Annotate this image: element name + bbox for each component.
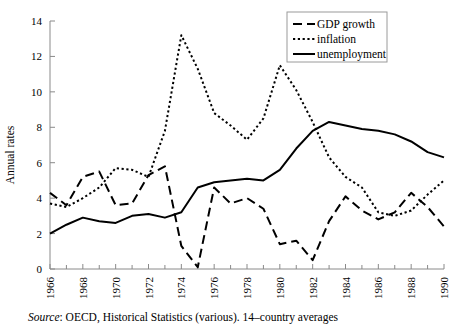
y-tick-label: 8 xyxy=(37,121,43,133)
y-tick-label: 10 xyxy=(31,86,43,98)
y-tick-label: 6 xyxy=(37,157,43,169)
x-tick-label: 1984 xyxy=(340,277,352,300)
x-tick-label: 1990 xyxy=(438,277,450,300)
legend-label-gdp-growth: GDP growth xyxy=(317,18,375,31)
x-tick-label: 1972 xyxy=(143,277,155,299)
source-label: Source xyxy=(28,311,60,323)
y-tick-label: 2 xyxy=(37,228,43,240)
x-tick-label: 1988 xyxy=(405,277,417,300)
x-tick-label: 1970 xyxy=(110,277,122,300)
series-line-gdp-growth xyxy=(50,166,444,267)
x-tick-label: 1982 xyxy=(307,277,319,299)
y-tick-label: 0 xyxy=(37,263,43,275)
y-tick-label: 14 xyxy=(31,15,43,27)
source-note: Source: OECD, Historical Statistics (var… xyxy=(28,311,338,323)
y-tick-label: 12 xyxy=(31,50,42,62)
x-tick-label: 1974 xyxy=(175,277,187,300)
x-axis-ticks xyxy=(50,264,444,269)
chart-canvas: 02468101214 1966196819701972197419761978… xyxy=(0,0,456,329)
y-axis-tick-labels: 02468101214 xyxy=(31,15,43,275)
legend-label-unemployment: unemployment xyxy=(317,48,387,61)
figure-container: 02468101214 1966196819701972197419761978… xyxy=(0,0,456,329)
x-tick-label: 1980 xyxy=(274,277,286,300)
source-text: : OECD, Historical Statistics (various).… xyxy=(60,311,339,323)
x-tick-label: 1978 xyxy=(241,277,253,300)
legend-label-inflation: inflation xyxy=(317,33,356,45)
x-tick-label: 1986 xyxy=(372,277,384,300)
x-axis-tick-labels: 1966196819701972197419761978198019821984… xyxy=(44,277,450,300)
data-series-group xyxy=(50,35,444,267)
x-tick-label: 1976 xyxy=(208,277,220,300)
y-axis-title: Annual rates xyxy=(4,125,16,184)
x-tick-label: 1968 xyxy=(77,277,89,300)
y-tick-label: 4 xyxy=(37,192,43,204)
chart-legend: GDP growthinflationunemployment xyxy=(287,12,387,62)
series-line-unemployment xyxy=(50,122,444,234)
x-tick-label: 1966 xyxy=(44,277,56,300)
